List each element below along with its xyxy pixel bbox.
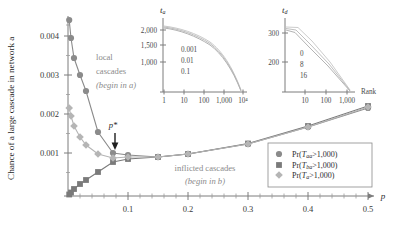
inset-right-legend-0: 0 (300, 50, 304, 58)
inset-left-curve-1 (164, 27, 241, 91)
inset-right-curve-1 (286, 29, 350, 91)
x-axis-arrow (368, 193, 374, 199)
inset-left-curve-0 (164, 26, 241, 90)
annotation-inflicted-line2: (begin in b) (185, 176, 225, 186)
inset-left-axis-title: ta (160, 5, 166, 15)
legend-circle-icon (276, 151, 282, 157)
x-tick-label-2: 0.3 (243, 204, 254, 214)
inset-left-legend-1: 0.01 (181, 57, 194, 65)
y-axis-title: Chance of a large cascade in network a (6, 37, 16, 180)
figure-container: 0.001 0.002 0.003 0.004 (0, 0, 400, 236)
inset-left-y-label-1: 1,500 (141, 42, 158, 50)
inset-right-x-label-2: 1,000 (339, 97, 356, 105)
x-axis-title: p (380, 191, 386, 201)
x-tick-label-1: 0.2 (183, 204, 194, 214)
inset-right-axis-title: td (282, 5, 289, 15)
inset-left-x-label-1: 10 (180, 97, 188, 105)
y-tick-label-3: 0.004 (40, 31, 60, 41)
inset-left-legend-0: 0.001 (181, 46, 198, 54)
inset-left-x-label-4: 10⁴ (238, 97, 248, 105)
inset-right-y-label-0: 200 (268, 59, 279, 67)
inset-left-y-label-2: 2,000 (141, 27, 158, 35)
x-tick-label-3: 0.4 (303, 204, 314, 214)
inset-left-y-label-0: 1,000 (141, 59, 158, 67)
inset-right-legend-1: 8 (300, 61, 304, 69)
inset-right-x-label-0: 10 (301, 97, 309, 105)
y-tick-label-2: 0.003 (40, 70, 59, 80)
inset-right-curve-2 (286, 30, 350, 91)
inset-right: 300 200 10 100 1,000 td Rank 0 8 16 (268, 5, 376, 105)
annotation-local-line2: cascades (96, 66, 127, 76)
annotation-inflicted-line1: inflicted cascades (175, 163, 236, 173)
annotation-local-line3: (begin in a) (96, 80, 136, 90)
inset-left-x-label-2: 100 (199, 97, 210, 105)
y-tick-label-1: 0.002 (40, 109, 59, 119)
pstar-label: p* (108, 120, 118, 130)
x-tick-label-4: 0.5 (363, 204, 374, 214)
legend-label-pr-ta: Pr(Ta>1,000) (292, 171, 335, 180)
y-tick-label-0: 0.001 (40, 148, 59, 158)
inset-right-legend-2: 16 (300, 72, 308, 80)
legend-label-pr-tba: Pr(Tba>1,000) (292, 161, 338, 170)
inset-left: 2,000 1,500 1,000 1 10 100 1,000 10⁴ ta … (141, 5, 249, 105)
legend: Pr(Taa>1,000) Pr(Tba>1,000) Pr(Ta>1,000) (268, 143, 372, 187)
inset-left-legend-2: 0.1 (181, 68, 190, 76)
inset-right-x-label-1: 100 (321, 97, 332, 105)
inset-right-x-axis-title: Rank (361, 88, 377, 96)
pstar-arrow-icon (112, 133, 119, 150)
inset-left-x-label-3: 1,000 (216, 97, 233, 105)
legend-square-icon (276, 162, 282, 168)
inset-left-x-label-0: 1 (162, 97, 166, 105)
x-tick-label-0: 0.1 (123, 204, 134, 214)
legend-label-pr-taa: Pr(Taa>1,000) (292, 150, 338, 159)
annotation-local-line1: local (96, 52, 113, 62)
inset-right-y-label-1: 300 (268, 30, 279, 38)
chart-svg: 0.001 0.002 0.003 0.004 (0, 0, 400, 236)
